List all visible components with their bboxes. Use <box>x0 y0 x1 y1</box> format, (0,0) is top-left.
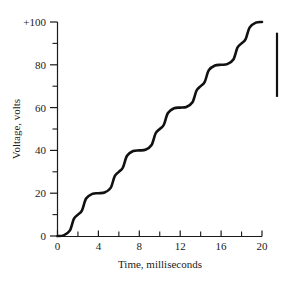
y-tick-label-0: 0 <box>41 230 47 242</box>
chart-figure: +100 80 60 40 20 0 Voltage, volts <box>0 0 289 283</box>
voltage-axis: +100 80 60 40 20 0 Voltage, volts <box>10 16 58 242</box>
y-tick-label-100: +100 <box>23 16 46 28</box>
y-tick-label-60: 60 <box>35 102 47 114</box>
y-axis-title: Voltage, volts <box>10 99 22 159</box>
x-tick-label-20: 20 <box>257 240 269 252</box>
x-axis-title: Time, milliseconds <box>118 258 202 270</box>
x-tick-label-0: 0 <box>55 240 61 252</box>
y-tick-label-80: 80 <box>35 59 47 71</box>
y-tick-label-20: 20 <box>35 187 47 199</box>
time-axis: 0 4 8 12 16 20 Time, milliseconds <box>55 231 268 271</box>
staircase-waveform-curve <box>58 22 263 236</box>
x-tick-label-4: 4 <box>96 240 102 252</box>
chart-canvas: +100 80 60 40 20 0 Voltage, volts <box>0 0 289 283</box>
y-tick-label-40: 40 <box>35 144 47 156</box>
x-tick-label-16: 16 <box>216 240 228 252</box>
x-tick-label-8: 8 <box>137 240 143 252</box>
x-tick-label-12: 12 <box>175 240 186 252</box>
